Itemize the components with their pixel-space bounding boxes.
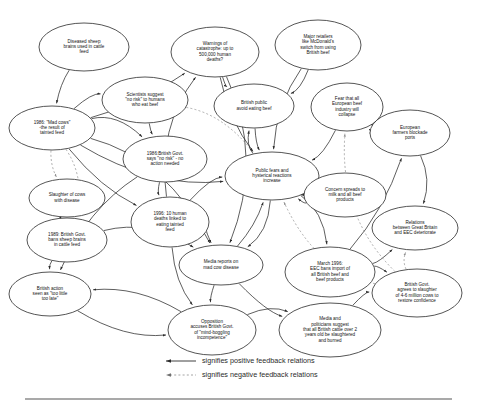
- node-warnings[interactable]: Warnings ofcatastrophe: up to500,000 hum…: [171, 27, 259, 77]
- legend-row-negative: signifies negative feedback relations: [166, 370, 318, 379]
- legend-negative-label: signifies negative feedback relations: [202, 370, 318, 379]
- node-shape-mad_cows[interactable]: [9, 106, 95, 150]
- node-fear_european[interactable]: Fear that allEuropean beefindustry willc…: [311, 83, 383, 131]
- node-deaths_10[interactable]: 1996: 10 humandeaths linked toeating tai…: [131, 197, 209, 247]
- diagram-canvas: Diseased sheepbrains used in cattlefeedW…: [0, 0, 477, 410]
- node-bans_sheep[interactable]: 1989: British Govt.bans sheep brainsin c…: [27, 218, 107, 262]
- edge-positive-media_politician-to-govt_slaughter: [353, 292, 369, 305]
- node-shape-slaughter_cows[interactable]: [29, 179, 105, 217]
- node-shape-opposition[interactable]: [168, 305, 256, 355]
- edge-positive-public_fears-to-media_reports: [248, 200, 271, 246]
- edge-positive-mad_cows-to-scientists: [74, 94, 100, 109]
- node-shape-diseased_sheep[interactable]: [39, 23, 129, 71]
- node-shape-deaths_10[interactable]: [131, 197, 209, 247]
- node-mad_cows[interactable]: 1986: "Mad cows"-the result oftainted fe…: [9, 106, 95, 150]
- legend-row-positive: signifies positive feedback relations: [166, 356, 315, 365]
- node-shape-media_politician[interactable]: [279, 303, 381, 357]
- node-media_politician[interactable]: Media andpoliticians suggestthat all Bri…: [279, 303, 381, 357]
- node-shape-public_avoid[interactable]: [214, 84, 294, 128]
- node-govt_no_risk[interactable]: 1986:British Govt.says "no risk" - noact…: [123, 136, 207, 182]
- edge-positive-eec_bans-to-govt_slaughter: [374, 266, 387, 272]
- node-too_little[interactable]: British actionseen as "too littletoo lat…: [9, 272, 91, 316]
- edge-positive-too_little-to-opposition: [78, 311, 166, 336]
- node-relations_eec[interactable]: Relationsbetween Great Britainand EEC de…: [372, 206, 458, 250]
- edge-positive-retailers-to-public_avoid: [291, 70, 308, 94]
- edge-positive-eec_bans-to-relations_eec: [373, 250, 392, 264]
- node-shape-warnings[interactable]: [171, 27, 259, 77]
- node-media_reports[interactable]: Media reports onmad cow disease: [179, 245, 263, 285]
- legend-positive-arrowhead: [166, 359, 171, 363]
- node-shape-blockade[interactable]: [370, 110, 450, 156]
- edge-positive-warnings-to-public_avoid: [223, 77, 227, 87]
- node-shape-media_reports[interactable]: [179, 245, 263, 285]
- node-shape-govt_slaughter[interactable]: [372, 269, 462, 317]
- node-eec_bans[interactable]: March 1996:EEC bans import ofall British…: [285, 247, 375, 297]
- legend: signifies positive feedback relations si…: [166, 356, 318, 379]
- edge-positive-media_reports-to-media_politician: [239, 284, 282, 317]
- node-shape-relations_eec[interactable]: [372, 206, 458, 250]
- edge-negative-govt_slaughter-to-relations_eec: [404, 252, 406, 269]
- node-shape-eec_bans[interactable]: [285, 247, 375, 297]
- edge-positive-opposition-to-media_politician: [247, 309, 287, 315]
- edge-positive-blockade-to-relations_eec: [421, 156, 427, 204]
- edge-positive-public_avoid-to-public_fears: [255, 128, 259, 150]
- edge-positive-bans_sheep-to-too_little: [50, 261, 52, 269]
- node-diseased_sheep[interactable]: Diseased sheepbrains used in cattlefeed: [39, 23, 129, 71]
- edge-negative-mad_cows-to-slaughter_cows: [51, 150, 56, 176]
- node-layer: Diseased sheepbrains used in cattlefeedW…: [9, 20, 462, 357]
- causal-loop-diagram: Diseased sheepbrains used in cattlefeedW…: [0, 0, 477, 410]
- edge-positive-opposition-to-too_little: [93, 289, 181, 311]
- node-opposition[interactable]: Oppositionaccuses British Govt.of "mind-…: [168, 305, 256, 355]
- node-blockade[interactable]: Europeanfarmers blockadeports: [370, 110, 450, 156]
- legend-positive-label: signifies positive feedback relations: [202, 356, 315, 365]
- edge-positive-govt_no_risk-to-deaths_10: [158, 182, 159, 195]
- node-slaughter_cows[interactable]: Slaughter of cowswith disease: [29, 179, 105, 217]
- node-scientists[interactable]: Scientists suggest"no risk" to humanswho…: [102, 77, 188, 123]
- node-shape-concern_milk[interactable]: [304, 173, 386, 217]
- node-shape-retailers[interactable]: [275, 20, 361, 70]
- node-shape-fear_european[interactable]: [311, 83, 383, 131]
- node-govt_slaughter[interactable]: British Govt.agrees to slaughterof 4-6 m…: [372, 269, 462, 317]
- node-public_avoid[interactable]: British publicavoid eating beef: [214, 84, 294, 128]
- node-shape-govt_no_risk[interactable]: [123, 136, 207, 182]
- edge-positive-scientists-to-govt_no_risk: [149, 123, 152, 134]
- edge-positive-media_reports-to-opposition: [210, 285, 214, 302]
- edge-positive-deaths_10-to-public_fears: [190, 177, 222, 200]
- edge-positive-media_reports-to-public_fears: [237, 202, 263, 246]
- node-shape-scientists[interactable]: [102, 77, 188, 123]
- edge-positive-fear_european-to-public_fears: [312, 130, 335, 160]
- node-concern_milk[interactable]: Concern spreads tomilk and all beefprodu…: [304, 173, 386, 217]
- legend-negative-arrowhead: [166, 373, 171, 376]
- node-shape-bans_sheep[interactable]: [27, 218, 107, 262]
- node-retailers[interactable]: Major retailerslike McDonald'sswitch fro…: [275, 20, 361, 70]
- edge-positive-diseased_sheep-to-mad_cows: [57, 70, 70, 103]
- node-shape-too_little[interactable]: [9, 272, 91, 316]
